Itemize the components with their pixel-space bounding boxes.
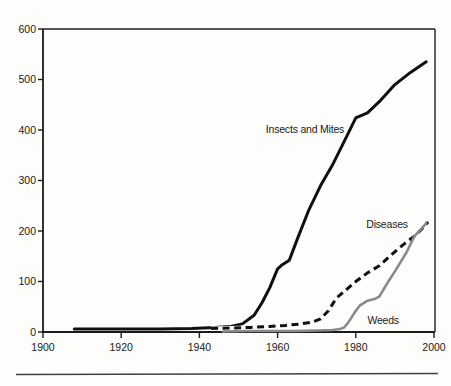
x-tick-label: 2000	[422, 341, 446, 353]
y-tick-label: 500	[18, 73, 36, 85]
x-tick-label: 1940	[188, 341, 212, 353]
footer-rule-line	[16, 374, 438, 375]
series-lines	[74, 62, 428, 332]
y-axis: 0100200300400500600	[18, 23, 43, 338]
y-tick-label: 400	[18, 124, 36, 136]
plot-border	[43, 29, 435, 332]
resistant-species-chart: 0100200300400500600 19001920194019601980…	[0, 0, 451, 386]
y-tick-label: 0	[30, 326, 36, 338]
series-label-diseases: Diseases	[366, 218, 408, 230]
series-label-insects-and-mites: Insects and Mites	[266, 123, 344, 135]
series-line-insects-and-mites	[74, 62, 426, 329]
x-tick-label: 1920	[110, 341, 134, 353]
y-tick-label: 300	[18, 174, 36, 186]
footer-rule	[16, 374, 438, 375]
x-axis: 190019201940196019802000	[31, 332, 446, 353]
figure-page: 0100200300400500600 19001920194019601980…	[0, 0, 451, 386]
x-tick-label: 1900	[31, 341, 55, 353]
series-label-weeds: Weeds	[367, 314, 399, 326]
series-line-diseases	[211, 222, 428, 329]
x-tick-label: 1960	[266, 341, 290, 353]
y-tick-label: 200	[18, 225, 36, 237]
x-tick-label: 1980	[344, 341, 368, 353]
y-tick-label: 600	[18, 23, 36, 35]
y-tick-label: 100	[18, 275, 36, 287]
series-casing-diseases	[211, 222, 428, 329]
